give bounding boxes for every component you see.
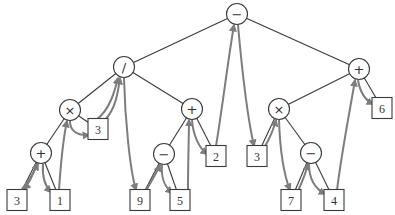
operator-node: − [301, 143, 322, 164]
operator-node: − [227, 4, 248, 25]
traversal-arrow [337, 80, 355, 190]
tree-edge [237, 14, 359, 69]
traversal-arrow [96, 78, 118, 120]
traversal-arrow [124, 78, 136, 190]
operand-label: 9 [137, 194, 143, 208]
traversal-arrow [309, 164, 325, 194]
expression-tree-diagram: −/+×+×6+3−23−319574 [0, 0, 395, 215]
traversal-arrow [146, 165, 160, 191]
traversal-arrow [70, 121, 89, 135]
operator-node: × [269, 99, 290, 120]
traversal-arrow [279, 120, 290, 190]
operator-node: − [154, 144, 175, 165]
traversal-arrow [358, 80, 373, 104]
operand-label: 7 [288, 194, 294, 208]
operand-leaf: 3 [88, 119, 108, 140]
operator-label: + [354, 62, 365, 77]
traversal-arrow [216, 25, 234, 146]
operand-leaf: 9 [130, 190, 150, 211]
operator-node: + [349, 59, 370, 80]
operator-label: × [274, 102, 285, 117]
operand-leaf: 4 [324, 190, 344, 211]
operator-node: × [60, 100, 81, 121]
operand-label: 3 [95, 123, 101, 137]
operand-leaf: 3 [7, 190, 27, 211]
operator-label: + [36, 146, 47, 161]
traversal-arrow [264, 120, 276, 148]
traversal-arrow [162, 165, 172, 193]
operand-leaf: 2 [206, 146, 226, 167]
operator-label: / [122, 60, 127, 75]
operator-label: − [159, 147, 170, 162]
operand-leaf: 3 [247, 146, 267, 167]
operator-node: + [31, 143, 52, 164]
operand-leaf: 7 [281, 190, 301, 211]
operand-label: 5 [177, 194, 183, 208]
traversal-arrow [192, 120, 207, 154]
operand-label: 6 [379, 102, 385, 116]
traversal-arrow [22, 164, 38, 189]
operand-leaf: 6 [372, 98, 392, 119]
traversal-arrow [298, 164, 308, 191]
operand-label: 3 [254, 150, 260, 164]
operand-label: 2 [213, 150, 219, 164]
operand-label: 1 [57, 194, 63, 208]
operator-node: / [114, 57, 135, 78]
operand-leaf: 5 [170, 190, 190, 211]
tree-nodes: −/+×+×6+3−23−319574 [7, 4, 392, 211]
operator-label: − [232, 7, 243, 22]
tree-edge [124, 67, 192, 109]
traversal-arrow [238, 25, 254, 146]
operator-label: + [187, 102, 198, 117]
traversal-arrow [59, 121, 67, 190]
operator-label: − [306, 146, 317, 161]
operand-label: 4 [331, 194, 337, 208]
tree-edge [279, 69, 359, 109]
tree-edge [124, 14, 237, 67]
operand-label: 3 [14, 194, 20, 208]
operand-leaf: 1 [50, 190, 70, 211]
operator-label: × [65, 103, 76, 118]
traversal-arrow [188, 120, 189, 190]
operator-node: + [182, 99, 203, 120]
